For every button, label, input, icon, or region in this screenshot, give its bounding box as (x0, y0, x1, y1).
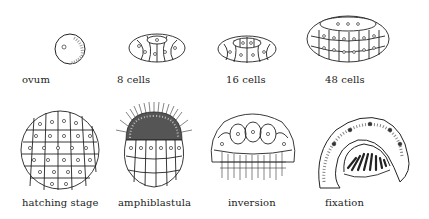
stage-label-inversion: inversion (228, 197, 276, 208)
stage-label-fixation: fixation (325, 197, 364, 208)
ovum-figure (52, 32, 88, 66)
stage-label-16-cells: 16 cells (226, 74, 266, 85)
stage-label-8-cells: 8 cells (117, 74, 150, 85)
amphiblastula-figure (112, 98, 196, 192)
hatching-stage-figure (18, 108, 102, 192)
inversion-figure (208, 108, 298, 184)
stage-label-ovum: ovum (22, 74, 50, 85)
48-cells-figure (305, 12, 391, 64)
8-cells-figure (127, 30, 187, 64)
stage-label-amphiblastula: amphiblastula (118, 197, 191, 208)
stage-label-hatching-stage: hatching stage (22, 197, 99, 208)
stage-label-48-cells: 48 cells (325, 74, 365, 85)
16-cells-figure (216, 32, 278, 64)
fixation-figure (314, 112, 414, 192)
